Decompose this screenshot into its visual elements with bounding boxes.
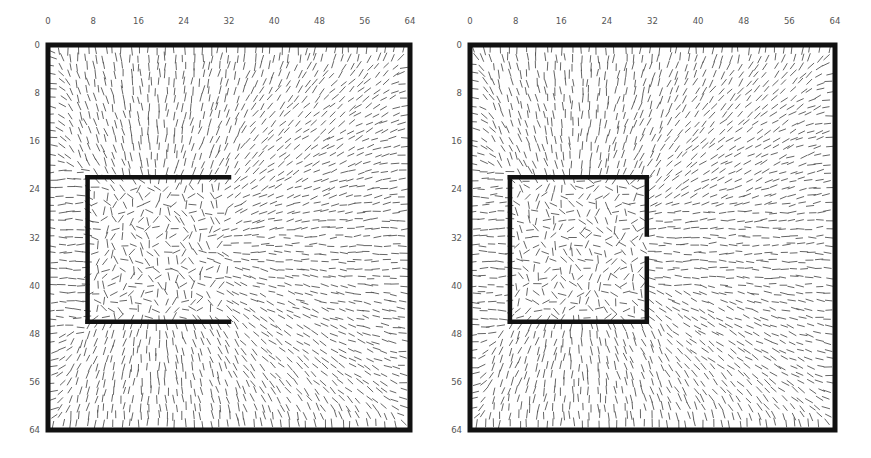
director-segment — [659, 48, 660, 56]
director-segment — [331, 252, 339, 253]
director-segment — [752, 121, 758, 125]
director-segment — [756, 154, 761, 158]
director-segment — [507, 95, 508, 102]
director-segment — [164, 52, 165, 60]
director-segment — [598, 256, 599, 264]
director-segment — [194, 154, 196, 160]
director-segment — [630, 395, 632, 402]
director-segment — [76, 219, 83, 220]
director-segment — [268, 103, 273, 109]
director-segment — [373, 276, 380, 277]
director-segment — [355, 162, 361, 166]
director-segment — [203, 70, 204, 77]
director-segment — [168, 257, 169, 264]
director-segment — [244, 54, 245, 62]
director-segment — [720, 119, 727, 123]
director-segment — [302, 72, 306, 78]
director-segment — [226, 357, 230, 364]
director-segment — [719, 308, 725, 311]
director-segment — [702, 348, 708, 352]
director-segment — [111, 208, 113, 215]
director-segment — [157, 234, 163, 238]
director-segment — [130, 153, 132, 161]
director-segment — [206, 214, 212, 215]
director-segment — [225, 209, 227, 215]
director-segment — [737, 341, 744, 345]
director-segment — [130, 331, 132, 338]
director-segment — [315, 324, 321, 326]
director-segment — [329, 195, 336, 198]
director-segment — [573, 80, 574, 87]
director-segment — [367, 122, 373, 124]
director-segment — [727, 113, 732, 119]
director-segment — [294, 315, 300, 318]
director-segment — [257, 301, 264, 303]
director-segment — [103, 62, 104, 68]
director-segment — [779, 388, 785, 392]
director-segment — [657, 168, 660, 175]
director-segment — [615, 412, 616, 418]
director-segment — [400, 91, 406, 93]
director-segment — [238, 78, 240, 85]
director-segment — [67, 370, 71, 376]
director-segment — [381, 374, 387, 377]
director-segment — [544, 380, 545, 387]
director-segment — [627, 411, 628, 418]
director-segment — [174, 79, 175, 87]
director-segment — [76, 80, 77, 88]
director-segment — [660, 96, 663, 104]
director-segment — [747, 81, 752, 86]
director-segment — [103, 372, 104, 380]
director-segment — [642, 166, 644, 173]
director-segment — [581, 338, 582, 346]
director-segment — [641, 70, 643, 78]
director-segment — [75, 186, 82, 187]
director-segment — [292, 212, 300, 214]
director-segment — [394, 113, 400, 116]
director-segment — [372, 342, 379, 344]
director-segment — [59, 71, 64, 75]
director-segment — [728, 355, 733, 359]
director-segment — [655, 261, 663, 262]
director-segment — [391, 170, 397, 172]
director-segment — [520, 80, 522, 87]
director-segment — [59, 79, 64, 83]
director-segment — [367, 56, 371, 63]
director-segment — [825, 419, 829, 425]
director-segment — [252, 152, 257, 158]
director-segment — [263, 145, 267, 149]
director-segment — [129, 120, 131, 128]
director-segment — [141, 290, 144, 297]
director-segment — [274, 251, 282, 252]
director-segment — [313, 350, 319, 354]
director-segment — [260, 177, 265, 181]
director-segment — [717, 276, 725, 277]
director-segment — [316, 96, 320, 102]
director-segment — [176, 275, 179, 282]
director-segment — [728, 104, 733, 110]
director-segment — [339, 71, 343, 77]
director-segment — [536, 185, 542, 189]
director-segment — [373, 399, 378, 403]
director-segment — [818, 310, 824, 311]
director-segment — [383, 202, 390, 204]
director-segment — [562, 160, 564, 167]
director-segment — [826, 246, 834, 247]
director-segment — [232, 292, 238, 295]
director-segment — [755, 171, 761, 175]
director-segment — [329, 163, 335, 166]
director-segment — [159, 143, 160, 150]
director-segment — [321, 284, 328, 287]
director-segment — [747, 127, 752, 132]
director-segment — [780, 277, 786, 278]
director-segment — [727, 306, 733, 310]
director-segment — [534, 310, 542, 311]
director-segment — [216, 200, 217, 208]
director-segment — [137, 204, 144, 207]
director-segment — [148, 134, 149, 142]
director-segment — [502, 122, 506, 128]
director-segment — [106, 331, 108, 337]
director-segment — [630, 292, 637, 294]
director-segment — [781, 269, 789, 270]
director-segment — [59, 347, 66, 350]
